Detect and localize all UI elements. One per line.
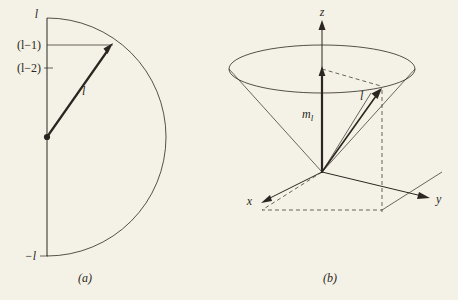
panel-b-cone-side-right [322, 69, 415, 172]
panel-b-ground-plane-dashed [262, 172, 382, 210]
panel-a: l (l−1) (l−2) −l l (a) [17, 7, 166, 285]
panel-b-vector-l [322, 96, 376, 172]
figure-root: l (l−1) (l−2) −l l (a) [0, 0, 458, 300]
panel-a-label-l-minus-1: (l−1) [17, 38, 41, 52]
panel-b-vector-l-companion [322, 93, 371, 172]
panel-b-projection-label-subscript: l [311, 113, 314, 123]
panel-b-x-axis [268, 172, 322, 199]
panel-a-vector-l [47, 50, 108, 137]
panel-b-label-z: z [319, 5, 325, 19]
panel-a-label-l-minus-2: (l−2) [17, 61, 41, 75]
panel-b-cone-radius-dashed [322, 69, 381, 86]
panel-b-z-axis-arrowhead [319, 20, 326, 30]
panel-b-projection-label-base: m [302, 107, 311, 121]
panel-b-projection-label: ml [302, 107, 314, 123]
panel-b-vector-m-l-arrowhead [319, 66, 326, 76]
panel-b-y-axis-arrowhead [417, 192, 430, 199]
panel-a-caption: (a) [78, 271, 92, 285]
panel-b-y-axis [322, 172, 422, 196]
panel-b: z x y l ml (b) [229, 5, 442, 285]
panel-b-ground-plane-solid [382, 172, 442, 210]
panel-b-vector-l-arrowhead [372, 88, 383, 99]
panel-b-label-y: y [435, 192, 442, 206]
panel-b-x-axis-arrowhead [261, 195, 272, 203]
panel-a-label-minus-l: −l [25, 249, 37, 263]
panel-b-label-x: x [246, 194, 253, 208]
panel-a-vector-label: l [82, 84, 86, 98]
panel-b-caption: (b) [323, 271, 337, 285]
panel-a-label-l-top: l [35, 7, 39, 21]
panel-b-vector-label: l [360, 89, 364, 103]
